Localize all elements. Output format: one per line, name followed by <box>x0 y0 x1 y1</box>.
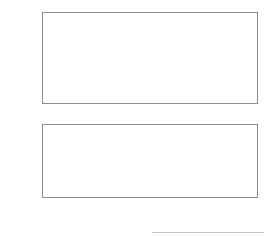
plot-area-daughter <box>42 124 258 198</box>
histogram-daughter <box>43 125 259 199</box>
histogram-dam <box>43 13 259 105</box>
page-divider-rule <box>152 232 264 233</box>
figure-two-panel-histograms <box>0 0 269 236</box>
plot-area-dam <box>42 12 258 104</box>
